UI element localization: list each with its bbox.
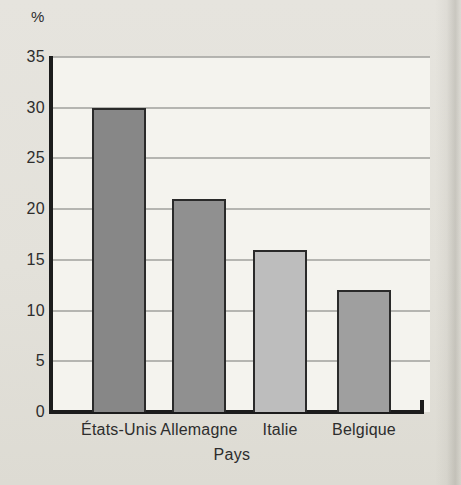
- x-axis-end-cap: [420, 400, 424, 412]
- scanned-page: 05101520253035 États-UnisAllemagneItalie…: [0, 0, 461, 485]
- bar-etats-unis: [92, 108, 146, 412]
- x-axis-title: Pays: [182, 446, 282, 464]
- bar-allemagne: [172, 199, 226, 412]
- y-tick-label-35: 35: [0, 48, 45, 66]
- y-axis-line: [49, 56, 53, 414]
- bar-belgique: [337, 290, 391, 412]
- y-tick-label-15: 15: [0, 251, 45, 269]
- y-tick-label-10: 10: [0, 302, 45, 320]
- y-tick-label-5: 5: [0, 352, 45, 370]
- x-category-label-belgique: Belgique: [314, 421, 414, 439]
- bar-chart: 05101520253035 États-UnisAllemagneItalie…: [0, 0, 461, 485]
- gridline-35: [52, 56, 430, 58]
- y-tick-label-25: 25: [0, 149, 45, 167]
- y-axis-unit-label: %: [31, 8, 44, 25]
- y-tick-label-0: 0: [0, 403, 45, 421]
- y-tick-label-30: 30: [0, 99, 45, 117]
- y-tick-label-20: 20: [0, 200, 45, 218]
- bar-italie: [253, 250, 307, 412]
